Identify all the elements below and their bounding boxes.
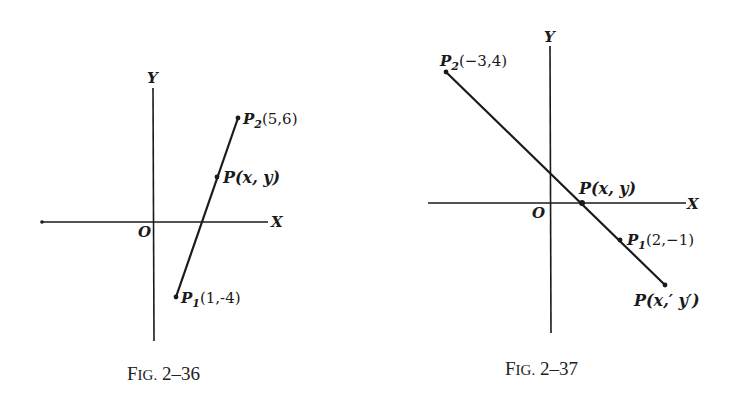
caption-fig-2-37: FIG. 2–37 [505, 358, 578, 379]
figure-2-37: Y X O P2(−3,4) P(x, y) P1(2,−1) P(x,′ y′… [428, 28, 700, 379]
x-axis-end [40, 220, 44, 224]
y-axis-label: Y [147, 69, 159, 87]
x-axis-label: X [270, 213, 284, 231]
point-p2 [444, 70, 449, 75]
y-axis-label: Y [544, 28, 556, 46]
point-p2 [236, 116, 241, 121]
point-p [579, 200, 585, 206]
point-p1 [174, 295, 179, 300]
label-p2: P2(5,6) [242, 110, 298, 131]
point-p1 [618, 238, 623, 243]
label-pprime: P(x,′ y′) [633, 291, 700, 310]
label-p2: P2(−3,4) [439, 52, 507, 73]
y-axis [550, 46, 551, 333]
figure-2-36: Y X O P2(5,6) P(x, y) P1(1,-4) FIG. 2–36 [40, 69, 297, 384]
label-p: P(x, y) [578, 179, 636, 198]
label-p1: P1(2,−1) [626, 231, 694, 252]
origin-label: O [532, 204, 545, 222]
point-pprime [663, 283, 668, 288]
point-p [215, 175, 220, 180]
y-axis [153, 88, 154, 341]
label-p1: P1(1,-4) [180, 289, 241, 310]
x-axis-label: X [686, 195, 700, 213]
origin-label: O [138, 223, 151, 241]
caption-fig-2-36: FIG. 2–36 [127, 363, 200, 384]
label-p: P(x, y) [222, 168, 280, 187]
diagram-canvas: Y X O P2(5,6) P(x, y) P1(1,-4) FIG. 2–36… [0, 0, 738, 398]
segment-p1-p2 [176, 118, 238, 297]
